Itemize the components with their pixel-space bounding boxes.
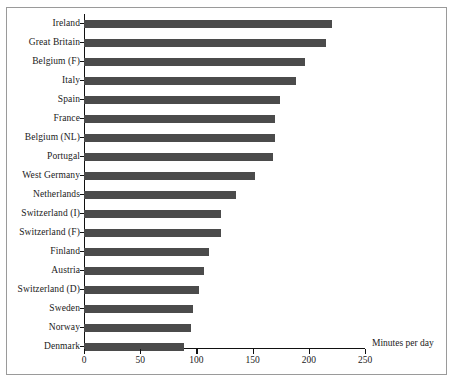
category-label: Austria	[51, 261, 80, 280]
bar-row: Spain	[0, 90, 454, 109]
x-axis-tick-label: 150	[233, 355, 273, 365]
bar	[84, 191, 236, 199]
x-axis-tick-label: 250	[345, 355, 385, 365]
category-label: Great Britain	[29, 33, 80, 52]
bar-row: France	[0, 109, 454, 128]
plot-area: IrelandGreat BritainBelgium (F)ItalySpai…	[0, 0, 454, 387]
bar	[84, 115, 275, 123]
category-label: Switzerland (D)	[18, 280, 80, 299]
bar-row: Switzerland (F)	[0, 223, 454, 242]
bar	[84, 77, 296, 85]
category-label: Belgium (NL)	[25, 128, 80, 147]
category-label: Sweden	[49, 299, 80, 318]
bar	[84, 153, 273, 161]
category-label: Norway	[49, 318, 80, 337]
category-label: Switzerland (I)	[21, 204, 80, 223]
category-label: Spain	[58, 90, 80, 109]
x-axis-title: Minutes per day	[372, 338, 434, 348]
chart-figure: IrelandGreat BritainBelgium (F)ItalySpai…	[0, 0, 454, 387]
bar-row: Norway	[0, 318, 454, 337]
bar	[84, 305, 193, 313]
category-label: Ireland	[52, 14, 80, 33]
bar	[84, 39, 326, 47]
bar	[84, 96, 280, 104]
bar	[84, 172, 255, 180]
bar-row: Portugal	[0, 147, 454, 166]
x-axis-tick	[365, 349, 366, 354]
x-axis-tick-label: 200	[289, 355, 329, 365]
bar	[84, 343, 184, 351]
category-label: Switzerland (F)	[19, 223, 80, 242]
category-label: France	[54, 109, 80, 128]
bar-row: Switzerland (I)	[0, 204, 454, 223]
bar	[84, 286, 199, 294]
x-axis-tick-label: 0	[64, 355, 104, 365]
bar-row: Great Britain	[0, 33, 454, 52]
bar	[84, 324, 191, 332]
bar-row: Ireland	[0, 14, 454, 33]
x-axis-tick	[140, 349, 141, 354]
bar-row: Austria	[0, 261, 454, 280]
category-label: West Germany	[22, 166, 80, 185]
bar	[84, 20, 332, 28]
bar	[84, 58, 305, 66]
bar	[84, 267, 204, 275]
x-axis-tick-label: 50	[120, 355, 160, 365]
category-label: Portugal	[47, 147, 80, 166]
bar	[84, 210, 221, 218]
bar	[84, 248, 209, 256]
category-label: Netherlands	[33, 185, 80, 204]
bar-row: Italy	[0, 71, 454, 90]
bar-row: West Germany	[0, 166, 454, 185]
category-label: Belgium (F)	[32, 52, 80, 71]
bar-row: Finland	[0, 242, 454, 261]
category-label: Denmark	[44, 337, 80, 356]
category-label: Finland	[50, 242, 80, 261]
x-axis-tick	[309, 349, 310, 354]
x-axis-tick	[84, 349, 85, 354]
bar	[84, 229, 221, 237]
x-axis-tick	[253, 349, 254, 354]
x-axis-tick-label: 100	[176, 355, 216, 365]
bar	[84, 134, 275, 142]
bar-row: Sweden	[0, 299, 454, 318]
bar-row: Switzerland (D)	[0, 280, 454, 299]
category-label: Italy	[62, 71, 80, 90]
bar-row: Belgium (NL)	[0, 128, 454, 147]
x-axis-tick	[196, 349, 197, 354]
bar-row: Netherlands	[0, 185, 454, 204]
bar-row: Belgium (F)	[0, 52, 454, 71]
